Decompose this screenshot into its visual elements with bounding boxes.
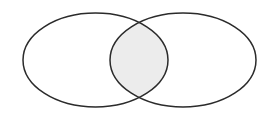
venn-diagram <box>0 0 268 120</box>
venn-diagram-svg <box>0 0 268 120</box>
